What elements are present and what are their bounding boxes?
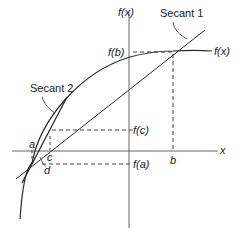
fc-label: f(c) <box>133 124 149 136</box>
function-curve <box>20 50 212 219</box>
y-axis-label: f(x) <box>118 6 134 18</box>
secant-method-diagram: f(x) x f(x) Secant 1 Secant 2 f(b) f(c) … <box>0 0 238 235</box>
fa-label: f(a) <box>133 158 150 170</box>
secant-2-leader <box>42 97 55 113</box>
secant-2-label: Secant 2 <box>30 82 73 94</box>
curve-label: f(x) <box>214 45 230 57</box>
x-axis-label: x <box>219 144 226 156</box>
point-a-label: a <box>29 138 35 150</box>
secant-1-label: Secant 1 <box>160 7 203 19</box>
point-b-label: b <box>170 154 176 166</box>
point-c-label: c <box>47 151 53 163</box>
fb-label: f(b) <box>108 46 125 58</box>
secant-1-leader <box>173 22 187 39</box>
